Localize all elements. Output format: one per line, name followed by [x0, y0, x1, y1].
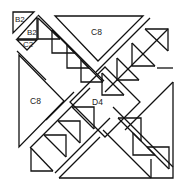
- quilt-block-diagram: B2 B2 C2 C8 C8 D4: [0, 0, 181, 190]
- label-c8-left: C8: [30, 96, 41, 106]
- band-upper-right: [96, 18, 168, 95]
- piece-c2: C2: [17, 40, 37, 50]
- label-b2-top: B2: [15, 15, 25, 24]
- piece-c8-left: C8: [19, 55, 64, 147]
- label-c8-top: C8: [91, 27, 102, 37]
- outer-border-lower-right: [59, 68, 173, 178]
- label-d4: D4: [92, 97, 103, 107]
- label-b2-second: B2: [27, 28, 37, 37]
- label-c2: C2: [23, 40, 34, 49]
